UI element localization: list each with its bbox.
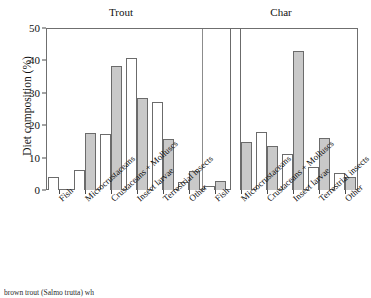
y-axis-title: Diet composition (%) xyxy=(21,21,33,191)
bar-trout-1-white xyxy=(74,170,85,190)
y-tick-mark-20 xyxy=(42,125,46,126)
y-tick-mark-50 xyxy=(42,28,46,29)
panel-title-trout: Trout xyxy=(76,6,166,18)
y-tick-mark-30 xyxy=(42,92,46,93)
y-tick-label-0: 0 xyxy=(0,184,46,196)
y-tick-mark-40 xyxy=(42,60,46,61)
y-tick-label-10: 10 xyxy=(0,152,46,164)
y-tick-mark-10 xyxy=(42,157,46,158)
bar-trout-3-white xyxy=(126,58,137,190)
bar-char-1-white xyxy=(230,28,241,190)
y-tick-label-30: 30 xyxy=(0,87,46,99)
y-tick-label-50: 50 xyxy=(0,22,46,34)
figure-caption: brown trout (Salmo trutta) wh xyxy=(4,288,364,297)
panel-title-char: Char xyxy=(246,6,316,18)
bar-char-1-gray xyxy=(241,142,252,190)
y-tick-label-20: 20 xyxy=(0,119,46,131)
bar-trout-0-white xyxy=(48,177,59,190)
y-tick-mark-0 xyxy=(42,190,46,191)
bar-trout-1-gray xyxy=(85,133,96,190)
y-tick-label-40: 40 xyxy=(0,54,46,66)
